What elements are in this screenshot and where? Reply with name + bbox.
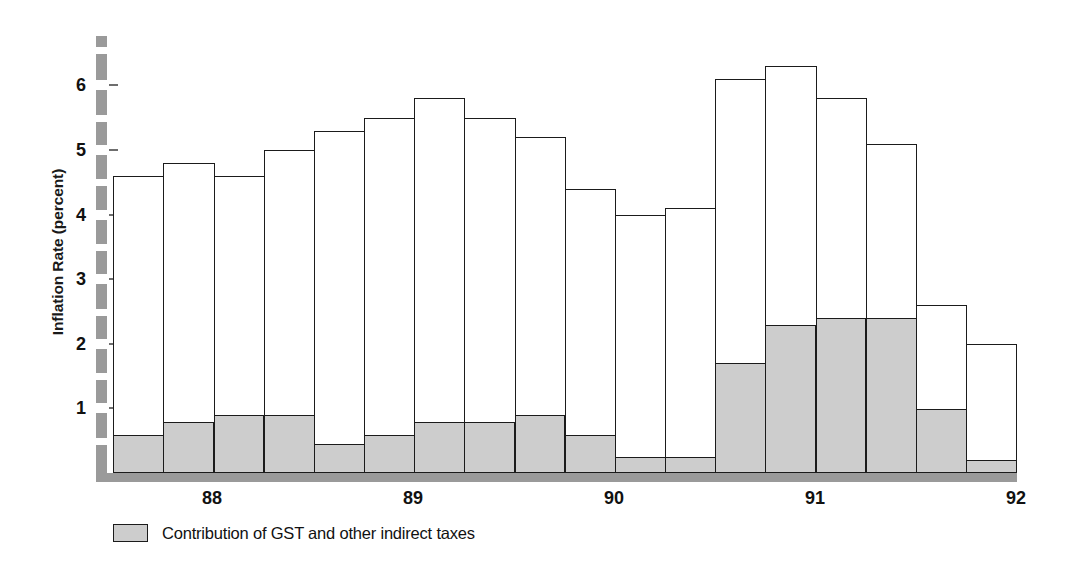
y-axis-gap <box>96 373 107 380</box>
legend-swatch-gst <box>113 524 148 542</box>
y-axis-gap <box>96 179 107 186</box>
bar-segment-gst <box>163 422 214 474</box>
x-axis-baseline <box>96 473 1017 482</box>
plot-area <box>113 36 1016 473</box>
bar-total <box>866 144 917 473</box>
y-axis-gap <box>96 274 107 284</box>
bar-total <box>815 98 866 473</box>
bar-total <box>715 79 766 473</box>
y-axis-gap <box>96 244 107 251</box>
x-tick-label: 90 <box>584 489 644 507</box>
y-tick-mark <box>109 84 118 86</box>
y-tick-label: 6 <box>62 76 86 94</box>
y-axis-gap <box>96 339 107 349</box>
y-tick-label: 5 <box>62 141 86 159</box>
bar-segment-gst <box>414 422 465 474</box>
bar-segment-gst <box>364 435 415 474</box>
bar-segment-gst <box>966 460 1017 473</box>
y-tick-label: 3 <box>62 270 86 288</box>
bar-total <box>364 118 415 473</box>
y-tick-label: 1 <box>62 399 86 417</box>
bar-total <box>464 118 515 473</box>
y-axis-gap <box>96 438 107 445</box>
bar-segment-gst <box>313 444 364 473</box>
bar-segment-gst <box>715 363 766 473</box>
bar-total <box>565 189 616 473</box>
y-axis-gap <box>96 47 107 54</box>
y-axis-line <box>96 36 107 481</box>
bar-segment-gst <box>665 457 716 473</box>
bar-total <box>514 137 565 473</box>
bar-segment-gst <box>915 409 966 474</box>
y-axis-tick-labels: 123456 <box>56 0 86 565</box>
x-tick-label: 91 <box>785 489 845 507</box>
y-tick-label: 4 <box>62 206 86 224</box>
y-axis-gap <box>96 210 107 220</box>
bar-segment-gst <box>514 415 565 473</box>
bar-segment-gst <box>464 422 515 474</box>
bar-segment-gst <box>765 325 816 474</box>
bar-total <box>163 163 214 473</box>
y-axis-gap <box>96 403 107 413</box>
x-tick-label: 88 <box>182 489 242 507</box>
y-tick-mark <box>109 149 118 151</box>
bar-total <box>615 215 666 473</box>
chart-figure: Inflation Rate (percent) 123456 88899091… <box>0 0 1073 565</box>
bar-total <box>665 208 716 473</box>
bar-total <box>113 176 164 473</box>
x-axis-tick-labels: 8889909192 <box>0 489 1073 515</box>
bar-total <box>966 344 1017 473</box>
bar-total <box>414 98 465 473</box>
y-axis-gap <box>96 145 107 155</box>
y-axis-gap <box>96 309 107 316</box>
y-axis-gap <box>96 80 107 90</box>
bar-segment-gst <box>213 415 264 473</box>
x-tick-label: 92 <box>986 489 1046 507</box>
bar-total <box>213 176 264 473</box>
bar-segment-gst <box>865 318 916 473</box>
legend-label-gst: Contribution of GST and other indirect t… <box>162 524 475 543</box>
bar-segment-gst <box>564 435 615 474</box>
bar-segment-gst <box>263 415 314 473</box>
y-axis-gap <box>96 115 107 122</box>
bar-total <box>314 131 365 473</box>
bar-segment-gst <box>815 318 866 473</box>
bar-total <box>916 305 967 473</box>
chart-legend: Contribution of GST and other indirect t… <box>113 521 475 545</box>
y-tick-label: 2 <box>62 335 86 353</box>
x-tick-label: 89 <box>383 489 443 507</box>
bar-total <box>765 66 816 473</box>
bar-segment-gst <box>614 457 665 473</box>
bar-segment-gst <box>113 435 164 474</box>
bar-total <box>264 150 315 473</box>
